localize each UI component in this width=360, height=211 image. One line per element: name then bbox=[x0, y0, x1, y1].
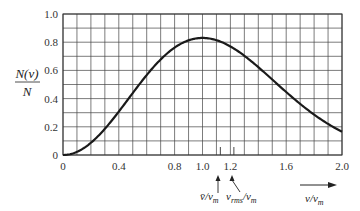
x-tick-label: 0.4 bbox=[112, 160, 126, 172]
x-tick-label: 0 bbox=[60, 160, 66, 172]
x-axis-ticks: 00.40.81.01.21.62.0 bbox=[60, 160, 349, 172]
y-axis-ticks: 00.20.40.60.81.0 bbox=[44, 8, 58, 161]
maxwell-distribution-chart: 00.20.40.60.81.0 00.40.81.01.21.62.0 N(v… bbox=[0, 0, 360, 211]
y-axis-label: N(v) N bbox=[14, 66, 40, 99]
x-tick-label: 1.6 bbox=[279, 160, 293, 172]
speed-markers bbox=[220, 147, 234, 155]
x-tick-label: 2.0 bbox=[335, 160, 349, 172]
y-tick-label: 0.6 bbox=[44, 64, 58, 76]
x-axis-label: v/vm bbox=[300, 182, 337, 207]
vbar-annotation: v̄/vm bbox=[200, 175, 221, 205]
y-tick-label: 0.4 bbox=[44, 93, 58, 105]
y-tick-label: 0.2 bbox=[44, 121, 58, 133]
x-tick-label: 0.8 bbox=[168, 160, 182, 172]
vrms-annotation: vrms/vm bbox=[226, 175, 257, 205]
y-tick-label: 1.0 bbox=[44, 8, 58, 20]
vbar-label: v̄/vm bbox=[200, 190, 219, 205]
y-tick-label: 0.8 bbox=[44, 36, 58, 48]
vrms-label: vrms/vm bbox=[226, 190, 257, 205]
x-tick-label: 1.0 bbox=[196, 160, 210, 172]
x-tick-label: 1.2 bbox=[224, 160, 238, 172]
y-label-denominator: N bbox=[22, 84, 33, 99]
y-label-numerator: N(v) bbox=[14, 66, 38, 81]
y-tick-label: 0 bbox=[53, 149, 59, 161]
grid-lines bbox=[63, 14, 342, 155]
x-label: v/vm bbox=[305, 192, 324, 207]
arrow-right-icon bbox=[328, 182, 337, 188]
